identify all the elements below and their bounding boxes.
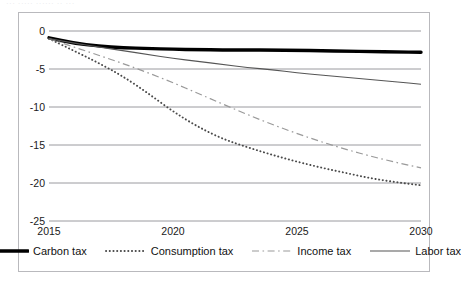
legend-swatch-icon: [369, 245, 411, 257]
legend-item-income-tax[interactable]: Income tax: [251, 245, 351, 257]
legend-label: Carbon tax: [33, 245, 87, 257]
series-line-consumption-tax: [49, 39, 421, 186]
legend-label: Consumption tax: [151, 245, 234, 257]
x-tick-label: 2015: [37, 225, 60, 237]
legend-item-labor-tax[interactable]: Labor tax: [369, 245, 461, 257]
x-tick-label: 2030: [409, 225, 432, 237]
legend-swatch-icon: [0, 245, 29, 257]
series-line-carbon-tax: [49, 38, 421, 52]
legend-label: Income tax: [297, 245, 351, 257]
legend-item-consumption-tax[interactable]: Consumption tax: [105, 245, 234, 257]
y-tick-label: -5: [36, 63, 45, 75]
chart-frame: 0-5-10-15-20-25 2015202020252030 Carbon …: [18, 12, 430, 272]
chart-legend: Carbon taxConsumption taxIncome taxLabor…: [27, 241, 421, 261]
y-tick-label: -10: [30, 101, 45, 113]
x-tick-label: 2025: [285, 225, 308, 237]
y-tick-label: -20: [30, 177, 45, 189]
legend-item-carbon-tax[interactable]: Carbon tax: [0, 245, 87, 257]
y-tick-label: -15: [30, 139, 45, 151]
y-tick-label: 0: [39, 25, 45, 37]
series-line-income-tax: [49, 39, 421, 168]
plot-svg: [49, 31, 421, 221]
legend-swatch-icon: [251, 245, 293, 257]
clipped-caption: ··· ····· ······ ·· ···: [6, 0, 75, 8]
x-tick-label: 2020: [161, 225, 184, 237]
legend-swatch-icon: [105, 245, 147, 257]
legend-label: Labor tax: [415, 245, 461, 257]
y-axis-labels: 0-5-10-15-20-25: [19, 25, 49, 227]
plot-area: [49, 31, 421, 221]
